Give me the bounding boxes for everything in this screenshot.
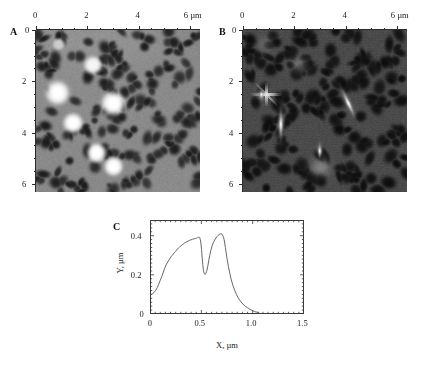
panel-b-left-minor-tick [241, 107, 244, 108]
panel-b-top-tick [243, 26, 244, 29]
panel-a-top-minor-tick [74, 28, 75, 31]
panel-b-top-tick-label: 0 [240, 11, 244, 20]
panel-letter-b: B [219, 27, 226, 37]
plot-c-x-axis-label: X, µm [177, 340, 277, 350]
panel-b-top-tick [397, 26, 398, 29]
panel-a-left-minor-tick [34, 56, 37, 57]
panel-b-left-tick [239, 81, 242, 82]
panel-letter-c: C [113, 222, 120, 232]
plot-c-y-tick-label: 0 [140, 310, 144, 319]
panel-b-left-axis [242, 30, 243, 192]
panel-b-top-minor-tick [307, 28, 308, 31]
panel-letter-a: A [10, 27, 17, 37]
panel-b-left-minor-tick [241, 145, 244, 146]
panel-a-top-minor-tick [164, 28, 165, 31]
panel-b-top-tick-label: 4 [343, 11, 347, 20]
panel-a-left-minor-tick [34, 107, 37, 108]
afm-image-b[interactable] [243, 30, 407, 192]
panel-a-top-minor-tick [100, 28, 101, 31]
panel-b-top-minor-tick [256, 28, 257, 31]
panel-b-left-tick [239, 133, 242, 134]
panel-a-left-tick-label: 2 [22, 77, 26, 86]
panel-a-top-tick [36, 26, 37, 29]
panel-a-left-minor-tick [34, 68, 37, 69]
panel-b-top-minor-tick [320, 28, 321, 31]
panel-b-left-minor-tick [241, 120, 244, 121]
panel-a-left-tick [32, 133, 35, 134]
panel-b-top-minor-tick [281, 28, 282, 31]
panel-b-left-tick [239, 184, 242, 185]
panel-a-left-minor-tick [34, 43, 37, 44]
panel-b-left-minor-tick [241, 56, 244, 57]
panel-b-top-minor-tick [358, 28, 359, 31]
panel-a-origin-label: 0 [25, 26, 29, 35]
afm-panel-a [36, 30, 200, 192]
panel-a-top-minor-tick [126, 28, 127, 31]
panel-a-top-minor-tick [151, 28, 152, 31]
plot-c-x-tick-label: 1.0 [246, 319, 257, 328]
panel-a-top-axis [36, 29, 200, 30]
panel-a-top-tick-label: 4 [136, 11, 140, 20]
panel-a-top-minor-tick [177, 28, 178, 31]
panel-a-top-tick [139, 26, 140, 29]
panel-b-left-tick-label: 6 [229, 180, 233, 189]
panel-a-top-tick [87, 26, 88, 29]
panel-b-left-minor-tick [241, 68, 244, 69]
panel-a-top-minor-tick [62, 28, 63, 31]
panel-b-left-minor-tick [241, 158, 244, 159]
panel-b-left-minor-tick [241, 171, 244, 172]
panel-b-left-minor-tick [241, 94, 244, 95]
panel-b-top-minor-tick [269, 28, 270, 31]
profile-plot-c [150, 220, 304, 314]
panel-b-top-axis [243, 29, 407, 30]
panel-a-left-tick [32, 81, 35, 82]
panel-a-left-tick-label: 4 [22, 129, 26, 138]
panel-a-left-minor-tick [34, 158, 37, 159]
panel-a-top-tick [190, 26, 191, 29]
panel-b-top-tick-label: 2 [291, 11, 295, 20]
panel-b-top-tick [294, 26, 295, 29]
panel-a-left-minor-tick [34, 94, 37, 95]
panel-a-top-tick-label: 2 [84, 11, 88, 20]
panel-b-left-tick-label: 4 [229, 129, 233, 138]
panel-b-left-tick-label: 2 [229, 77, 233, 86]
afm-panel-b [243, 30, 407, 192]
panel-a-top-minor-tick [113, 28, 114, 31]
panel-a-top-tick-label: 6 µm [184, 11, 202, 20]
panel-a-left-tick [32, 184, 35, 185]
plot-c-x-tick-label: 1.5 [297, 319, 308, 328]
panel-b-top-minor-tick [333, 28, 334, 31]
panel-b-top-tick [346, 26, 347, 29]
afm-image-a[interactable] [36, 30, 200, 192]
plot-c-y-axis-label: Y, µm [115, 243, 125, 283]
panel-b-origin-label: 0 [232, 26, 236, 35]
plot-c-x-tick-label: 0 [148, 319, 152, 328]
panel-a-left-tick-label: 6 [22, 180, 26, 189]
panel-b-top-minor-tick [371, 28, 372, 31]
plot-c-y-tick-label: 0.4 [131, 232, 142, 241]
plot-c-x-tick-label: 0.5 [194, 319, 205, 328]
panel-a-top-tick-label: 0 [33, 11, 37, 20]
panel-a-left-minor-tick [34, 145, 37, 146]
panel-b-top-tick-label: 6 µm [391, 11, 409, 20]
plot-c-y-tick-label: 0.2 [131, 271, 142, 280]
plot-c-canvas[interactable] [150, 220, 304, 314]
panel-b-left-minor-tick [241, 43, 244, 44]
panel-b-left-tick [239, 30, 242, 31]
panel-a-left-minor-tick [34, 171, 37, 172]
panel-a-left-minor-tick [34, 120, 37, 121]
panel-a-left-tick [32, 30, 35, 31]
plot-c-data-line[interactable] [150, 234, 259, 313]
panel-a-top-minor-tick [49, 28, 50, 31]
panel-b-top-minor-tick [384, 28, 385, 31]
panel-a-left-axis [35, 30, 36, 192]
